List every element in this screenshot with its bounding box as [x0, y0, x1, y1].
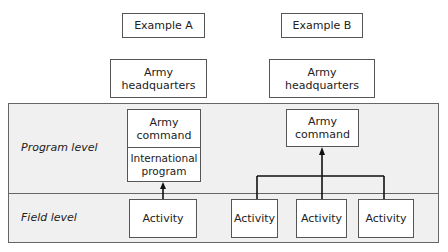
- arrow-up-icon: [160, 182, 166, 189]
- connector-lines: [0, 0, 448, 252]
- arrow-up-icon: [319, 147, 325, 155]
